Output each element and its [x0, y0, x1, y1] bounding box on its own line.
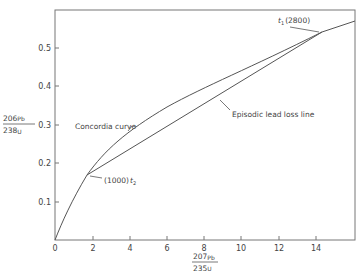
y-tick-label: 0.5	[38, 44, 51, 53]
t2-label: (1000)t2	[104, 176, 136, 186]
concordia-chart: 0.1 0.2 0.3 0.4 0.5 0 2 4 6 8 10 12 14 C…	[0, 0, 364, 277]
svg-text:238U: 238U	[3, 126, 22, 135]
svg-text:207Pb: 207Pb	[193, 252, 215, 261]
y-tick-label: 0.3	[38, 121, 51, 130]
x-tick-label: 12	[274, 244, 284, 253]
x-tick-label: 2	[90, 244, 95, 253]
x-axis-label: 207Pb 235U	[192, 252, 218, 273]
lead-loss-label: Episodic lead loss line	[232, 110, 315, 119]
x-tick-label: 10	[236, 244, 246, 253]
y-axis-label: 206Pb 238U	[3, 114, 35, 135]
x-tick-label: 14	[311, 244, 321, 253]
x-tick-label: 6	[164, 244, 169, 253]
concordia-label: Concordia curve	[75, 122, 136, 131]
y-axis	[55, 48, 59, 202]
x-tick-label: 4	[127, 244, 132, 253]
svg-text:235U: 235U	[193, 264, 212, 273]
y-tick-label: 0.2	[38, 159, 51, 168]
y-tick-label: 0.1	[38, 198, 51, 207]
svg-text:206Pb: 206Pb	[3, 114, 25, 123]
x-axis	[93, 236, 316, 240]
t2-leader	[90, 176, 102, 178]
x-tick-label: 0	[52, 244, 57, 253]
y-tick-label: 0.4	[38, 82, 51, 91]
t1-leader	[290, 27, 319, 32]
lead-loss-leader	[220, 100, 230, 110]
t1-label: t1(2800)	[278, 16, 310, 26]
lead-loss-line	[87, 32, 322, 175]
